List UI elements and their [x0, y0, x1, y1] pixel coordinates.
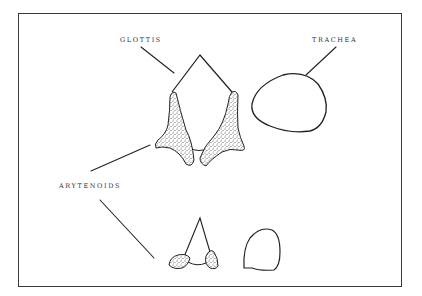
glottis-leader-line: [141, 47, 174, 73]
trachea-open: [252, 74, 327, 132]
larynx-diagram: [0, 0, 422, 296]
arytenoids-leader-lower: [100, 200, 154, 258]
glottis-open: [155, 55, 244, 166]
left-arytenoid-open: [155, 92, 194, 165]
trachea-leader-line: [306, 47, 336, 75]
arytenoids-leader-upper: [91, 145, 150, 171]
right-arytenoid-closed: [206, 251, 219, 269]
left-arytenoid-closed: [169, 254, 190, 268]
trachea-closed: [244, 229, 280, 270]
glottis-closed: [169, 218, 218, 269]
right-arytenoid-open: [200, 91, 244, 166]
